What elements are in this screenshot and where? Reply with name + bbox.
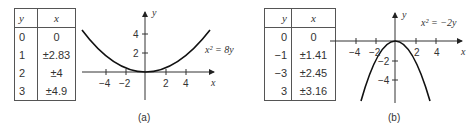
caption-b: (b) — [388, 112, 400, 123]
equation-b: x² = −2y — [420, 17, 457, 28]
y-axis-label: y — [401, 9, 407, 20]
graph-a: −4 −2 2 4 4 2 x y x² = 8y (a) — [82, 7, 234, 123]
x-tick: 2 — [414, 47, 420, 58]
y-axis-label: y — [151, 7, 157, 18]
x-tick: 4 — [434, 47, 440, 58]
y-tick: 4 — [133, 29, 139, 40]
graph-b: −4 −2 2 4 −2 −4 x y x² = −2y (b) — [330, 9, 466, 123]
x-tick: −4 — [349, 47, 361, 58]
x-axis-label: x — [210, 77, 216, 88]
caption-a: (a) — [138, 112, 150, 123]
parabola-a — [82, 30, 210, 72]
equation-a: x² = 8y — [204, 44, 234, 55]
graphs: −4 −2 2 4 4 2 x y x² = 8y (a) −4 −2 2 4 … — [0, 0, 475, 129]
y-tick: 2 — [133, 48, 139, 59]
y-tick: −2 — [378, 56, 390, 67]
x-tick: −4 — [99, 78, 111, 89]
x-axis-label: x — [460, 46, 466, 57]
x-tick: −2 — [119, 78, 131, 89]
x-tick: 4 — [183, 78, 189, 89]
y-tick: −4 — [378, 75, 390, 86]
x-tick: 2 — [163, 78, 169, 89]
